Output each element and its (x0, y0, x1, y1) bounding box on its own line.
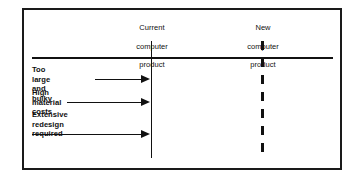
diagram-canvas: Current computer product New computer pr… (0, 0, 361, 179)
arrow-shaft-2 (67, 102, 142, 104)
axis-label-new-line-1: New (232, 23, 294, 32)
arrow-shaft-3 (32, 134, 142, 136)
arrow-shaft-1 (95, 79, 142, 81)
timeline-baseline (32, 57, 333, 59)
axis-label-current-line-1: Current (121, 23, 183, 32)
arrow-head-icon-2 (141, 98, 150, 106)
arrow-head-icon-1 (141, 75, 150, 83)
arrow-head-icon-3 (141, 130, 150, 138)
